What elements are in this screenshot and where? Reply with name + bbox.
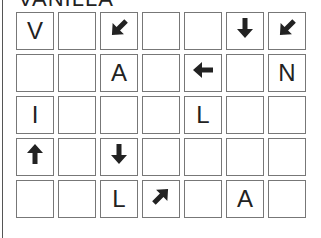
grid-cell[interactable]: [58, 54, 96, 92]
grid-cell[interactable]: V: [16, 12, 54, 50]
grid-cell[interactable]: [100, 96, 138, 134]
grid-cell[interactable]: A: [100, 54, 138, 92]
cell-letter: N: [278, 59, 295, 87]
grid-cell[interactable]: [268, 138, 306, 176]
grid-cell[interactable]: N: [268, 54, 306, 92]
grid-cell[interactable]: [184, 180, 222, 218]
grid-cell[interactable]: [226, 12, 264, 50]
grid-cell[interactable]: [58, 96, 96, 134]
grid-cell[interactable]: [16, 138, 54, 176]
cell-letter: A: [237, 185, 253, 213]
arrow-down-icon: [107, 142, 131, 172]
puzzle-grid: VANILLA: [16, 12, 306, 218]
grid-cell[interactable]: [16, 54, 54, 92]
arrow-up-right-icon: [149, 184, 173, 214]
grid-cell[interactable]: [184, 12, 222, 50]
arrow-up-icon: [23, 142, 47, 172]
cell-letter: I: [32, 101, 39, 129]
arrow-down-icon: [233, 16, 257, 46]
grid-cell[interactable]: [100, 12, 138, 50]
grid-cell[interactable]: [226, 54, 264, 92]
grid-cell[interactable]: [142, 138, 180, 176]
cell-letter: A: [111, 59, 127, 87]
grid-cell[interactable]: [58, 180, 96, 218]
grid-cell[interactable]: [226, 138, 264, 176]
arrow-down-left-icon: [107, 16, 131, 46]
arrow-down-left-icon: [275, 16, 299, 46]
grid-cell[interactable]: [58, 12, 96, 50]
grid-cell[interactable]: [142, 54, 180, 92]
cell-letter: V: [27, 17, 43, 45]
grid-cell[interactable]: L: [100, 180, 138, 218]
grid-cell[interactable]: [226, 96, 264, 134]
grid-cell[interactable]: [268, 180, 306, 218]
grid-cell[interactable]: [100, 138, 138, 176]
grid-cell[interactable]: [268, 96, 306, 134]
grid-cell[interactable]: [268, 12, 306, 50]
puzzle-title: VANILLA: [18, 0, 114, 12]
grid-cell[interactable]: [142, 96, 180, 134]
grid-cell[interactable]: A: [226, 180, 264, 218]
cell-letter: L: [196, 101, 209, 129]
cell-letter: L: [112, 185, 125, 213]
grid-cell[interactable]: [16, 180, 54, 218]
grid-cell[interactable]: [142, 180, 180, 218]
left-border: [2, 0, 3, 238]
grid-cell[interactable]: [184, 54, 222, 92]
grid-cell[interactable]: L: [184, 96, 222, 134]
grid-cell[interactable]: [58, 138, 96, 176]
grid-cell[interactable]: [142, 12, 180, 50]
arrow-left-icon: [191, 58, 215, 88]
grid-cell[interactable]: [184, 138, 222, 176]
grid-cell[interactable]: I: [16, 96, 54, 134]
